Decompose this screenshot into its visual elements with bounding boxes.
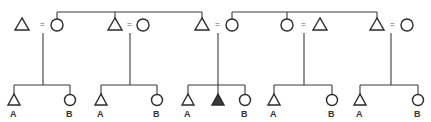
children-bars (14, 85, 418, 95)
children-c3: A B (182, 94, 251, 119)
couple-1: = (15, 18, 63, 31)
children-c2: A B (95, 94, 163, 119)
male-triangle-icon (108, 18, 122, 30)
label-a: A (97, 109, 104, 119)
marriage-sign: = (301, 20, 306, 29)
children-c4: A B (268, 94, 338, 119)
marriage-sign: = (40, 20, 45, 29)
female-circle-icon (137, 19, 149, 31)
male-triangle-icon (95, 94, 107, 105)
kinship-diagram: = = = = = (0, 0, 431, 122)
marriage-sign: = (390, 20, 395, 29)
male-triangle-icon (313, 18, 327, 30)
male-triangle-icon (195, 18, 209, 30)
male-triangle-icon (8, 94, 20, 105)
descent-lines (43, 33, 391, 85)
female-circle-icon (51, 19, 63, 31)
female-circle-icon (327, 95, 338, 106)
label-b: B (153, 109, 160, 119)
sibling-bar-left (57, 12, 202, 19)
label-a: A (270, 109, 277, 119)
female-circle-icon (240, 95, 251, 106)
female-circle-icon (152, 95, 163, 106)
male-triangle-icon (370, 18, 384, 30)
marriage-sign: = (127, 20, 132, 29)
label-a: A (10, 109, 17, 119)
male-triangle-icon (354, 94, 366, 105)
couple-2: = (108, 18, 149, 31)
male-triangle-icon (268, 94, 280, 105)
female-circle-icon (281, 19, 293, 31)
children-c5: A B (354, 94, 424, 119)
label-a: A (356, 109, 363, 119)
female-circle-icon (413, 95, 424, 106)
ego-filled-triangle-icon (212, 94, 224, 105)
couple-4: = (281, 18, 327, 31)
label-b: B (414, 109, 421, 119)
label-b: B (66, 109, 73, 119)
couple-5: = (370, 18, 413, 31)
female-circle-icon (226, 19, 238, 31)
female-circle-icon (65, 95, 76, 106)
male-triangle-icon (182, 94, 194, 105)
female-circle-icon (401, 19, 413, 31)
label-b: B (241, 109, 248, 119)
sibling-bar-right (232, 12, 377, 19)
male-triangle-icon (15, 18, 29, 30)
couple-3: = (195, 18, 238, 31)
label-b: B (328, 109, 335, 119)
children-c1: A B (8, 94, 76, 119)
label-a: A (184, 109, 191, 119)
marriage-sign: = (215, 20, 220, 29)
